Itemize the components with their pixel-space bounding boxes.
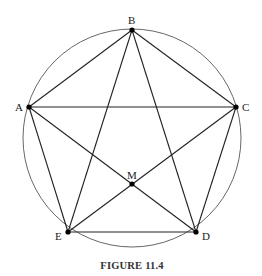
label-C: C <box>242 101 249 113</box>
point-C <box>233 104 238 109</box>
point-B <box>129 27 134 32</box>
segment-BE <box>68 30 132 232</box>
vertex-labels: A B C D E M <box>15 14 249 242</box>
pentagon-sides <box>29 30 236 232</box>
segment-EA <box>29 107 68 232</box>
label-A: A <box>15 101 23 113</box>
point-A <box>26 104 31 109</box>
segment-BC <box>132 30 236 107</box>
pentagon-diagram: A B C D E M FIGURE 11.4 <box>0 0 262 276</box>
point-M <box>129 181 134 186</box>
label-M: M <box>127 169 137 181</box>
point-D <box>193 229 198 234</box>
figure-caption: FIGURE 11.4 <box>100 260 164 271</box>
segment-CD <box>196 107 236 232</box>
circumscribed-circle <box>23 29 241 247</box>
label-B: B <box>128 14 135 26</box>
label-D: D <box>202 230 210 242</box>
segment-AD <box>29 107 196 232</box>
label-E: E <box>55 230 62 242</box>
point-E <box>65 229 70 234</box>
pentagon-diagonals <box>29 30 236 232</box>
segment-BD <box>132 30 196 232</box>
